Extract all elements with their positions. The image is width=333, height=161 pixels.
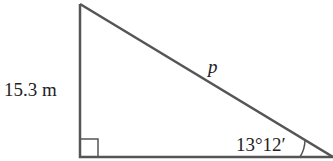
hypotenuse-line xyxy=(80,4,333,157)
side-label: 15.3 m xyxy=(4,79,57,100)
right-angle-marker xyxy=(80,139,98,157)
angle-arc xyxy=(300,140,305,157)
hypotenuse-label: p xyxy=(206,56,218,77)
triangle-diagram: 15.3 m p 13°12′ xyxy=(0,0,333,161)
angle-label: 13°12′ xyxy=(236,134,286,155)
